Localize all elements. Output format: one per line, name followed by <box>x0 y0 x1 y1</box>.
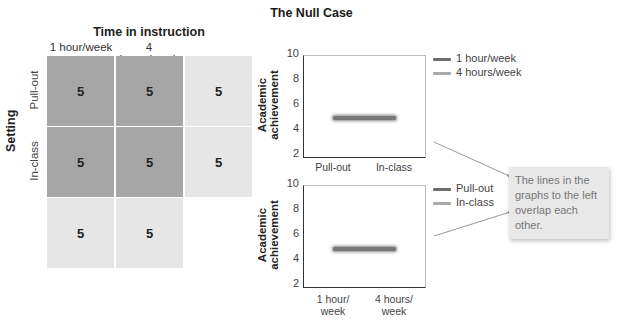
callout-arrows <box>0 0 623 321</box>
arrow-to-top-chart-icon <box>434 142 507 175</box>
callout-line-1: The lines in the <box>515 173 603 188</box>
callout-line-3: overlap each other. <box>515 203 603 233</box>
arrow-to-bottom-chart-icon <box>434 213 507 236</box>
callout-line-2: graphs to the left <box>515 188 603 203</box>
callout-note: The lines in the graphs to the left over… <box>509 167 609 239</box>
